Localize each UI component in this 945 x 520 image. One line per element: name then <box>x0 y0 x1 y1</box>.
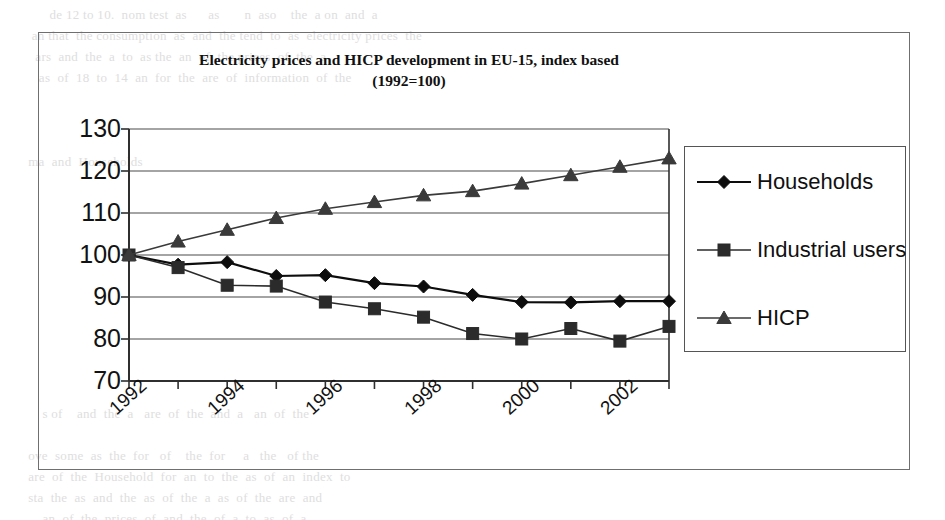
series-households <box>123 249 676 309</box>
marker-square <box>418 311 430 323</box>
marker-square <box>516 333 528 345</box>
legend-marker-diamond-icon <box>695 171 753 193</box>
marker-square <box>718 244 730 256</box>
legend-item-label: Households <box>757 169 873 195</box>
figure-frame: Electricity prices and HICP development … <box>38 32 910 470</box>
marker-diamond <box>466 288 479 301</box>
marker-square <box>565 323 577 335</box>
series-line <box>129 158 669 255</box>
marker-triangle <box>662 151 676 164</box>
marker-diamond <box>368 277 381 290</box>
legend-item-label: Industrial users <box>757 237 906 263</box>
series-line <box>129 255 669 341</box>
legend-marker-square-icon <box>695 239 753 261</box>
marker-diamond <box>319 269 332 282</box>
marker-diamond <box>221 256 234 269</box>
series-hicp <box>122 151 676 260</box>
legend-item-households[interactable]: Households <box>695 167 873 197</box>
marker-square <box>614 335 626 347</box>
marker-square <box>270 280 282 292</box>
marker-square <box>663 320 675 332</box>
legend-item-label: HICP <box>757 305 810 331</box>
marker-square <box>172 262 184 274</box>
marker-diamond <box>564 296 577 309</box>
legend-item-industrial-users[interactable]: Industrial users <box>695 235 906 265</box>
marker-diamond <box>718 176 731 189</box>
marker-square <box>319 296 331 308</box>
marker-square <box>221 279 233 291</box>
legend-item-hicp[interactable]: HICP <box>695 303 810 333</box>
marker-square <box>368 303 380 315</box>
chart-legend: HouseholdsIndustrial usersHICP <box>684 146 906 352</box>
legend-marker-triangle-icon <box>695 307 753 329</box>
marker-diamond <box>417 280 430 293</box>
marker-square <box>467 328 479 340</box>
